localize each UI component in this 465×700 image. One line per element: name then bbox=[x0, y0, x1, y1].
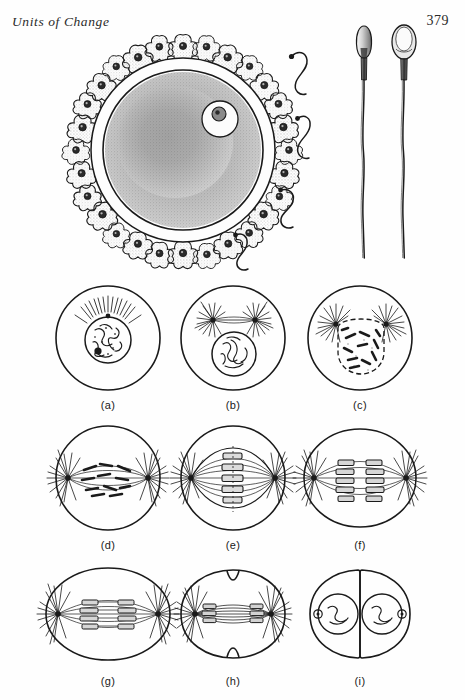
cell-membrane bbox=[181, 286, 285, 390]
separating-chromatids bbox=[336, 460, 384, 502]
centriole-left bbox=[210, 317, 215, 322]
cleavage-furrow-bottom bbox=[227, 648, 239, 657]
spindle-fibers bbox=[314, 462, 406, 495]
sperm-midpiece bbox=[361, 58, 367, 80]
aster-right bbox=[243, 302, 273, 337]
sperm-tail bbox=[363, 80, 364, 258]
panel-label: (h) bbox=[161, 675, 305, 687]
panel-label: (c) bbox=[288, 399, 432, 411]
sperm-side-view bbox=[356, 26, 371, 258]
panel-label: (f) bbox=[288, 539, 432, 551]
sperm-acrosome bbox=[396, 27, 412, 51]
mitosis-panel-a: (a) bbox=[36, 282, 180, 419]
mitosis-panel-h: (h) bbox=[161, 558, 305, 695]
aster-right bbox=[372, 304, 406, 342]
centriole-left bbox=[333, 321, 338, 326]
nucleus bbox=[212, 332, 256, 376]
mitosis-panel-e: (e) bbox=[161, 422, 305, 559]
mitosis-figure-grid: (a) bbox=[16, 282, 449, 694]
centriole-right bbox=[383, 321, 388, 326]
mitosis-panel-i: (i) bbox=[288, 558, 432, 695]
panel-label: (b) bbox=[161, 399, 305, 411]
panel-label: (i) bbox=[288, 675, 432, 687]
spermatozoa-figure bbox=[338, 18, 434, 268]
aster-left bbox=[316, 304, 350, 342]
panel-label: (a) bbox=[36, 399, 180, 411]
mitosis-panel-d: (d) bbox=[36, 422, 180, 559]
mitosis-panel-c: (c) bbox=[288, 282, 432, 419]
mitosis-panel-g: (g) bbox=[36, 558, 180, 695]
cleavage-furrow-top bbox=[227, 571, 239, 580]
chromosomes bbox=[221, 337, 247, 368]
panel-label: (g) bbox=[36, 675, 180, 687]
chromatid-groups bbox=[80, 600, 136, 629]
nucleolus bbox=[94, 347, 101, 354]
sperm-face-view bbox=[392, 25, 416, 258]
daughter-nucleus-left bbox=[318, 594, 358, 634]
chromosomes bbox=[82, 464, 130, 496]
aster-rays bbox=[75, 296, 141, 323]
mitosis-panel-b: (b) bbox=[161, 282, 305, 419]
chromosomes bbox=[342, 328, 380, 368]
mitosis-panel-f: (f) bbox=[288, 422, 432, 559]
book-page: Units of Change 379 bbox=[0, 0, 465, 700]
equatorial-plate bbox=[222, 453, 243, 503]
ovum-figure bbox=[48, 22, 318, 272]
spindle-fibers bbox=[58, 601, 158, 628]
aster-left bbox=[195, 302, 225, 337]
centriole-right bbox=[252, 317, 257, 322]
panel-label: (e) bbox=[161, 539, 305, 551]
daughter-nucleus-right bbox=[362, 594, 402, 634]
panel-label: (d) bbox=[36, 539, 180, 551]
